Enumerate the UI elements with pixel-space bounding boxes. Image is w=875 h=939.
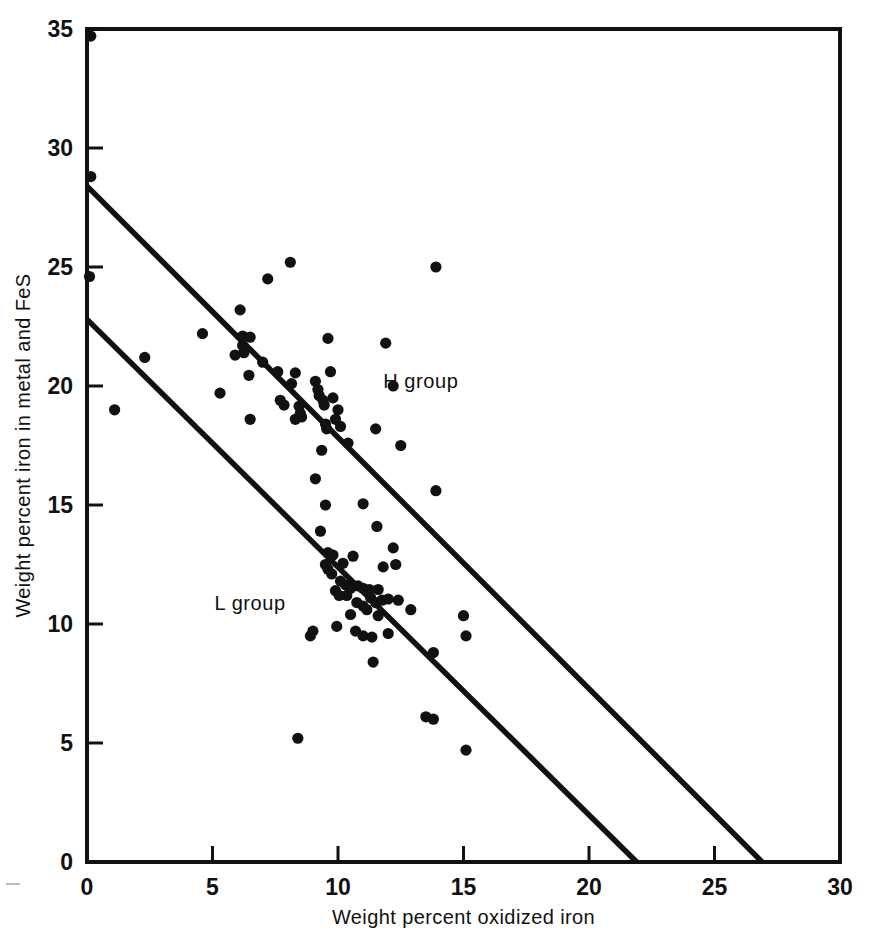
data-point [85, 31, 96, 42]
y-tick-label-15: 15 [47, 492, 73, 518]
data-point [390, 559, 401, 570]
y-tick-label-35: 35 [47, 16, 73, 42]
data-point [310, 473, 321, 484]
x-tick-label-20: 20 [576, 874, 602, 900]
data-point [319, 399, 330, 410]
data-point [257, 357, 268, 368]
data-point [405, 604, 416, 615]
data-point [430, 485, 441, 496]
data-points [84, 31, 472, 756]
y-tick-label-0: 0 [60, 849, 73, 875]
data-point [395, 440, 406, 451]
data-point [262, 273, 273, 284]
data-point [373, 610, 384, 621]
annotation-l-group: L group [215, 592, 286, 614]
data-point [430, 261, 441, 272]
x-tick-label-5: 5 [206, 874, 219, 900]
data-point [272, 366, 283, 377]
data-point [347, 551, 358, 562]
data-point [322, 333, 333, 344]
data-point [460, 745, 471, 756]
data-point [342, 438, 353, 449]
data-point [345, 609, 356, 620]
data-point [370, 423, 381, 434]
y-tick-label-20: 20 [47, 373, 73, 399]
y-axis-title: Weight percent iron in metal and FeS [12, 273, 34, 617]
data-point [229, 349, 240, 360]
x-tick-label-30: 30 [827, 874, 853, 900]
data-point [371, 521, 382, 532]
data-point [316, 445, 327, 456]
data-point [327, 549, 338, 560]
x-tick-label-15: 15 [451, 874, 477, 900]
data-point [235, 304, 246, 315]
data-point [296, 411, 307, 422]
data-point [197, 328, 208, 339]
data-point [325, 366, 336, 377]
data-point [341, 590, 352, 601]
data-point [245, 332, 256, 343]
data-point [428, 647, 439, 658]
data-point [380, 338, 391, 349]
data-point [305, 630, 316, 641]
reference-line-1 [87, 186, 762, 862]
data-point [373, 584, 384, 595]
data-point [383, 628, 394, 639]
axis-titles: Weight percent oxidized ironWeight perce… [12, 273, 595, 928]
data-point [332, 404, 343, 415]
data-point [378, 561, 389, 572]
data-point [285, 257, 296, 268]
data-point [368, 656, 379, 667]
y-tick-label-5: 5 [60, 730, 73, 756]
data-point [458, 610, 469, 621]
y-tick-label-25: 25 [47, 254, 73, 280]
annotation-h-group: H group [383, 370, 458, 392]
data-point [366, 631, 377, 642]
x-tick-label-10: 10 [325, 874, 351, 900]
data-point [383, 593, 394, 604]
data-point [320, 499, 331, 510]
y-tick-label-30: 30 [47, 135, 73, 161]
axis-tick-labels: 05101520253035051015202530 [47, 16, 852, 900]
x-tick-label-0: 0 [81, 874, 94, 900]
data-point [460, 630, 471, 641]
data-point [243, 370, 254, 381]
y-tick-label-10: 10 [47, 611, 73, 637]
data-point [326, 568, 337, 579]
data-point [315, 526, 326, 537]
data-point [286, 378, 297, 389]
data-point [337, 558, 348, 569]
scatter-plot-figure: 05101520253035051015202530 H groupL grou… [0, 0, 875, 939]
data-point [85, 171, 96, 182]
data-point [290, 367, 301, 378]
data-point [428, 714, 439, 725]
data-point [327, 392, 338, 403]
data-point [393, 595, 404, 606]
data-point [321, 423, 332, 434]
data-point [331, 621, 342, 632]
data-point [109, 404, 120, 415]
reference-lines [87, 186, 762, 862]
data-point [214, 388, 225, 399]
data-point [292, 733, 303, 744]
data-point [358, 498, 369, 509]
data-point [139, 352, 150, 363]
data-point [245, 414, 256, 425]
axis-frame [87, 29, 840, 862]
x-tick-label-25: 25 [702, 874, 728, 900]
x-axis-title: Weight percent oxidized iron [332, 906, 595, 928]
data-point [84, 271, 95, 282]
data-point [278, 399, 289, 410]
data-point [361, 604, 372, 615]
chart-canvas: 05101520253035051015202530 H groupL grou… [0, 0, 875, 939]
data-point [335, 421, 346, 432]
data-point [388, 542, 399, 553]
